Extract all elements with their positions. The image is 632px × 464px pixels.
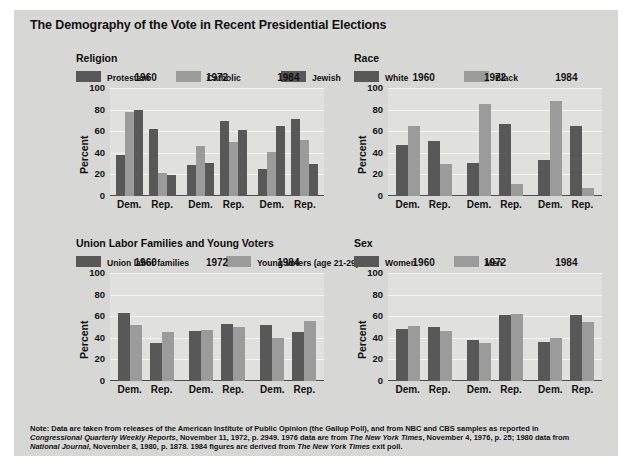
x-axis-tick-label: Dem. <box>538 199 562 210</box>
y-axis-tick-label: 80 <box>357 105 383 115</box>
gridline <box>388 88 602 89</box>
bar <box>205 163 214 196</box>
bar <box>292 332 304 381</box>
bar <box>428 141 440 196</box>
gridline <box>110 273 324 274</box>
bar <box>499 315 511 381</box>
bar <box>272 338 284 381</box>
bar <box>116 155 125 196</box>
bar <box>396 145 408 196</box>
bar <box>440 164 452 196</box>
bar <box>158 173 167 196</box>
year-label: 1984 <box>555 72 577 83</box>
bar <box>304 321 316 381</box>
bar <box>408 326 420 381</box>
year-label: 1960 <box>413 72 435 83</box>
bar <box>260 325 272 381</box>
year-label: 1960 <box>135 72 157 83</box>
chart-title: Religion <box>76 52 117 64</box>
x-axis-tick-label: Dem. <box>189 384 213 395</box>
bar <box>134 110 143 196</box>
legend-swatch <box>176 71 201 82</box>
bar <box>479 343 491 381</box>
x-axis-tick-label: Rep. <box>429 384 451 395</box>
bar <box>511 184 523 196</box>
y-axis-tick-label: 100 <box>79 83 105 93</box>
bar <box>189 331 201 381</box>
bar <box>201 330 213 381</box>
x-axis-tick-label: Rep. <box>500 199 522 210</box>
x-axis-tick-label: Dem. <box>467 384 491 395</box>
x-axis-tick-label: Dem. <box>260 384 284 395</box>
x-axis-tick-label: Rep. <box>571 199 593 210</box>
x-axis-tick-label: Rep. <box>571 384 593 395</box>
y-axis-label: Percent <box>78 320 90 359</box>
bar <box>309 164 318 196</box>
plot-area: 020406080100 <box>388 273 602 381</box>
year-label: 1972 <box>484 257 506 268</box>
bar <box>582 322 594 381</box>
bar <box>511 314 523 381</box>
y-axis-tick-label: 80 <box>357 290 383 300</box>
bar <box>258 169 267 196</box>
bar <box>162 332 174 381</box>
y-axis-tick-label: 80 <box>79 290 105 300</box>
x-axis-tick-label: Dem. <box>117 384 141 395</box>
bar <box>440 331 452 381</box>
chart-panel-race: RaceWhiteBlack020406080100Percent1960Dem… <box>354 52 606 217</box>
bar <box>221 324 233 381</box>
bar <box>167 175 176 196</box>
y-axis-label: Percent <box>78 135 90 174</box>
x-axis-tick-label: Dem. <box>260 199 284 210</box>
gridline <box>110 295 324 296</box>
year-label: 1984 <box>277 257 299 268</box>
chart-title: Race <box>354 52 379 64</box>
legend-swatch <box>76 71 101 82</box>
bar <box>118 313 130 381</box>
year-label: 1984 <box>277 72 299 83</box>
plot-area: 020406080100 <box>110 273 324 381</box>
bar <box>550 101 562 196</box>
plot-area: 020406080100 <box>388 88 602 196</box>
bar <box>238 130 247 196</box>
bar <box>300 140 309 196</box>
chart-panel-sex: SexWomenMen020406080100Percent1960Dem.Re… <box>354 237 606 402</box>
bar <box>538 160 550 196</box>
bar <box>187 165 196 196</box>
gridline <box>110 316 324 317</box>
x-axis-tick-label: Dem. <box>188 199 212 210</box>
bar <box>408 126 420 196</box>
chart-panel-religion: ReligionProtestantCatholicJewish02040608… <box>76 52 328 217</box>
legend-swatch <box>454 256 479 267</box>
legend-swatch <box>354 256 379 267</box>
x-axis-tick-label: Rep. <box>429 199 451 210</box>
bar <box>150 343 162 381</box>
bar <box>149 129 158 196</box>
y-axis-tick-label: 80 <box>79 105 105 115</box>
x-axis-tick-label: Rep. <box>151 384 173 395</box>
x-axis-tick-label: Dem. <box>395 199 419 210</box>
bar <box>291 119 300 196</box>
x-axis-tick-label: Dem. <box>395 384 419 395</box>
bar <box>570 126 582 196</box>
gridline <box>110 88 324 89</box>
bar <box>125 112 134 196</box>
year-label: 1972 <box>206 72 228 83</box>
chart-title: Union Labor Families and Young Voters <box>76 237 274 249</box>
figure-panel: The Demography of the Vote in Recent Pre… <box>14 10 618 456</box>
x-axis-tick-label: Rep. <box>151 199 173 210</box>
legend-swatch <box>226 256 251 267</box>
y-axis-tick-label: 100 <box>79 268 105 278</box>
bar <box>467 340 479 381</box>
year-label: 1972 <box>484 72 506 83</box>
bar <box>229 142 238 196</box>
y-axis-tick-label: 0 <box>79 191 105 201</box>
bar <box>428 327 440 381</box>
gridline <box>388 273 602 274</box>
x-axis-tick-label: Rep. <box>500 384 522 395</box>
y-axis-label: Percent <box>356 135 368 174</box>
source-note: Note: Data are taken from releases of th… <box>30 424 590 451</box>
legend-label: Women <box>385 258 416 268</box>
x-axis-tick-label: Rep. <box>294 199 316 210</box>
bar <box>130 325 142 381</box>
